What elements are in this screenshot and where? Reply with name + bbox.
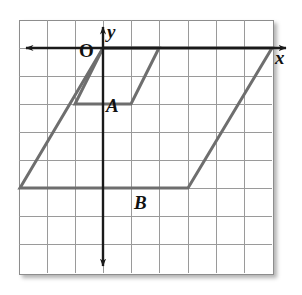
geometry-figure: y x O A B <box>0 0 302 295</box>
point-label-b: B <box>134 193 147 212</box>
large-parallelogram-b <box>20 48 272 188</box>
x-axis-label: x <box>275 48 285 67</box>
origin-label: O <box>79 41 94 60</box>
y-axis-label: y <box>107 22 115 41</box>
point-label-a: A <box>106 96 119 115</box>
figure-svg-layer <box>0 0 302 295</box>
